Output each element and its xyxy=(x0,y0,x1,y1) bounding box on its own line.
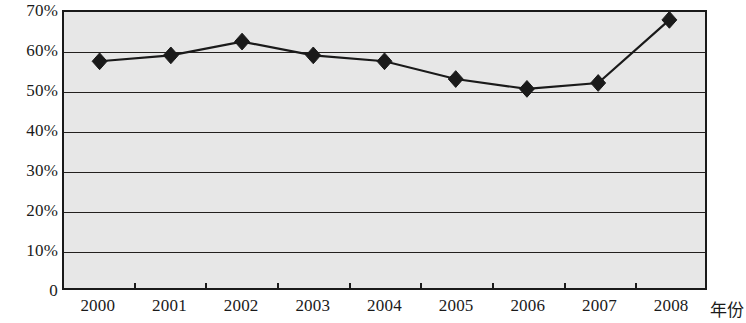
line-series xyxy=(64,12,705,288)
chart-figure: 70%60%50%40%30%20%10%0 20002001200220032… xyxy=(0,0,746,323)
x-axis-tick-label: 2004 xyxy=(345,296,425,316)
y-axis-tick-label: 50% xyxy=(4,82,58,99)
data-point-marker xyxy=(163,47,178,64)
x-axis-tickmark xyxy=(205,283,207,290)
data-point-marker xyxy=(377,53,392,70)
x-axis-tick-label: 2001 xyxy=(130,296,210,316)
x-axis-tick-label: 2007 xyxy=(560,296,640,316)
x-axis-tickmark xyxy=(349,283,351,290)
y-axis-tick-label: 0 xyxy=(4,282,58,299)
y-axis-tick-label: 70% xyxy=(4,2,58,19)
x-axis: 200020012002200320042005200620072008 xyxy=(62,296,707,323)
x-axis-tickmark xyxy=(635,283,637,290)
x-axis-tick-label: 2008 xyxy=(631,296,711,316)
x-axis-tickmark xyxy=(492,283,494,290)
x-axis-tickmark xyxy=(564,283,566,290)
x-axis-tickmark xyxy=(277,283,279,290)
data-point-marker xyxy=(519,81,534,98)
x-axis-tick-label: 2005 xyxy=(416,296,496,316)
y-axis-tick-label: 30% xyxy=(4,162,58,179)
y-axis-tick-label: 20% xyxy=(4,202,58,219)
y-axis-tick-label: 60% xyxy=(4,42,58,59)
y-axis-tick-label: 40% xyxy=(4,122,58,139)
x-axis-tickmark xyxy=(420,283,422,290)
data-point-marker xyxy=(306,47,321,64)
y-axis: 70%60%50%40%30%20%10%0 xyxy=(0,0,58,323)
data-point-marker xyxy=(92,53,107,70)
data-point-marker xyxy=(448,71,463,88)
plot-area xyxy=(62,10,707,290)
x-axis-tick-label: 2000 xyxy=(58,296,138,316)
x-axis-title: 年份 xyxy=(710,296,744,321)
data-point-marker xyxy=(235,33,250,50)
x-axis-tick-label: 2006 xyxy=(488,296,568,316)
x-axis-tickmark xyxy=(134,283,136,290)
x-axis-tick-label: 2003 xyxy=(273,296,353,316)
x-axis-tick-label: 2002 xyxy=(201,296,281,316)
y-axis-tick-label: 10% xyxy=(4,242,58,259)
